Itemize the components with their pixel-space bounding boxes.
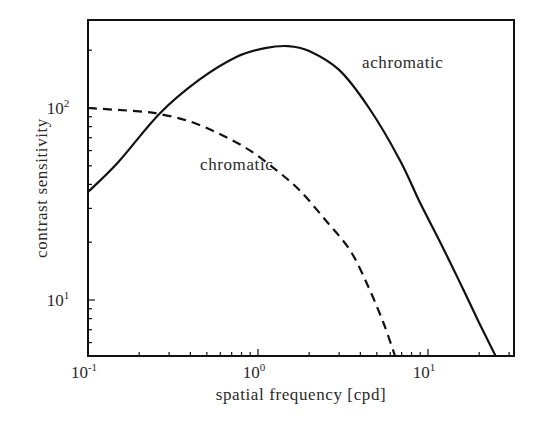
x-tick-label: 100 [243,361,266,382]
x-tick-label: 10-1 [71,361,97,382]
x-tick-label: 101 [413,361,436,382]
y-axis-label: contrast sensitivity [32,118,51,258]
axis-ticks [88,50,509,356]
series-achromatic [88,46,496,356]
csf-chart: 10-1100101101102 spatial frequency [cpd]… [0,0,540,423]
series-chromatic [88,108,395,356]
annotation-chromatic: chromatic [200,155,273,174]
x-axis-label: spatial frequency [cpd] [216,385,387,404]
tick-labels: 10-1100101101102 [47,97,436,382]
plot-frame [88,20,514,356]
y-tick-label: 101 [47,289,70,310]
annotation-achromatic: achromatic [362,53,444,72]
plot-curves [88,46,496,356]
y-tick-label: 102 [47,97,70,118]
